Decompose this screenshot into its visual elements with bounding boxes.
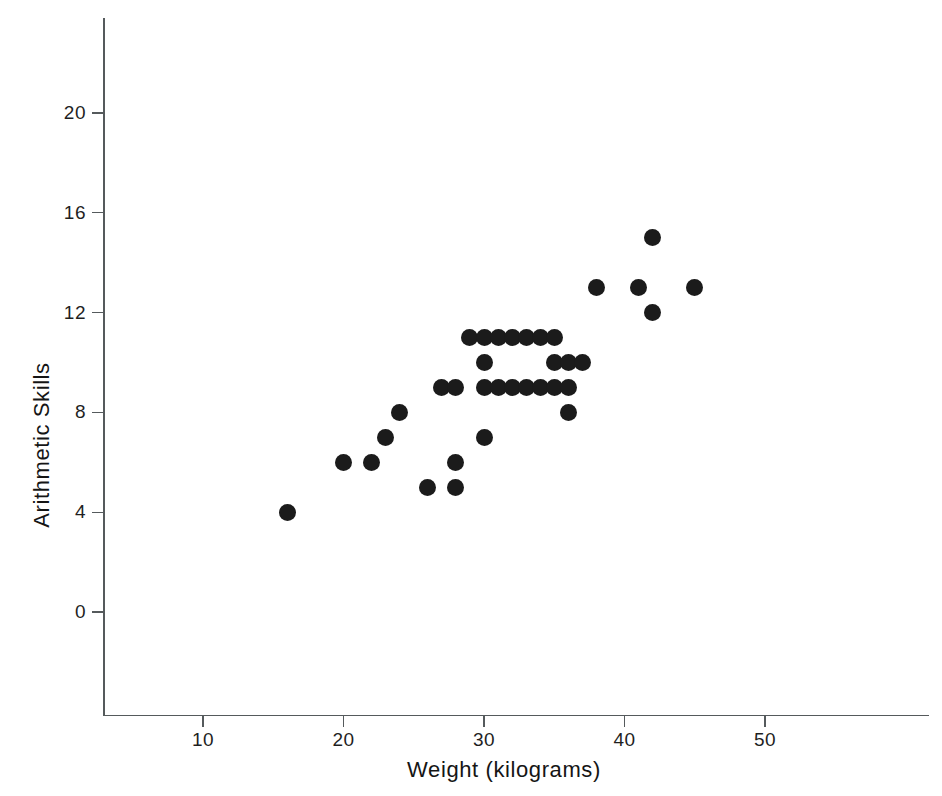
data-point: [377, 429, 394, 446]
data-point: [546, 379, 563, 396]
data-point: [644, 304, 661, 321]
x-axis-title-text: Weight (kilograms): [407, 757, 601, 783]
data-point: [588, 279, 605, 296]
x-axis-title: Weight (kilograms): [0, 757, 942, 783]
data-point: [546, 329, 563, 346]
x-axis-line: [103, 715, 929, 717]
data-point: [476, 329, 493, 346]
data-point: [476, 379, 493, 396]
data-point: [490, 379, 507, 396]
data-point: [504, 379, 521, 396]
data-point: [532, 329, 549, 346]
x-tick-40: [624, 716, 625, 727]
data-point: [433, 379, 450, 396]
data-point: [447, 454, 464, 471]
x-tick-label-30: 30: [454, 729, 514, 751]
data-point: [447, 379, 464, 396]
y-tick-4: [92, 512, 103, 513]
x-tick-label-10: 10: [173, 729, 233, 751]
data-point: [335, 454, 352, 471]
data-point: [574, 354, 591, 371]
data-point: [518, 379, 535, 396]
y-tick-0: [92, 611, 103, 612]
data-point: [419, 479, 436, 496]
y-axis-title: Arithmetic Skills: [22, 0, 62, 796]
y-axis-title-text: Arithmetic Skills: [22, 362, 62, 527]
data-point: [546, 354, 563, 371]
x-tick-label-50: 50: [735, 729, 795, 751]
data-point: [518, 329, 535, 346]
x-tick-20: [343, 716, 344, 727]
data-point: [476, 429, 493, 446]
data-point: [560, 379, 577, 396]
y-tick-20: [92, 112, 103, 113]
data-point: [476, 354, 493, 371]
data-point: [504, 329, 521, 346]
x-tick-label-20: 20: [314, 729, 374, 751]
data-point: [490, 329, 507, 346]
data-point: [560, 354, 577, 371]
data-point: [447, 479, 464, 496]
data-point: [391, 404, 408, 421]
x-tick-50: [764, 716, 765, 727]
plot-data-area: [0, 0, 942, 796]
y-tick-12: [92, 312, 103, 313]
data-point: [532, 379, 549, 396]
x-tick-30: [483, 716, 484, 727]
data-point: [644, 229, 661, 246]
data-point: [363, 454, 380, 471]
y-tick-8: [92, 412, 103, 413]
data-point: [630, 279, 647, 296]
y-tick-16: [92, 212, 103, 213]
x-tick-label-40: 40: [595, 729, 655, 751]
y-axis-line: [103, 18, 105, 716]
data-point: [686, 279, 703, 296]
data-point: [461, 329, 478, 346]
x-tick-10: [202, 716, 203, 727]
data-point: [560, 404, 577, 421]
scatter-plot-figure: 048121620 1020304050 Weight (kilograms) …: [0, 0, 942, 796]
data-point: [279, 504, 296, 521]
